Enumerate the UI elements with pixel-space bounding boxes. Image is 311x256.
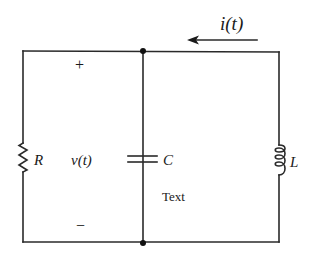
top-wire [23, 51, 279, 52]
voltage-label: v(t) [71, 153, 92, 168]
inductor-icon [275, 145, 285, 175]
plus-sign: + [75, 57, 84, 73]
capacitor-branch [128, 51, 157, 242]
minus-sign: − [76, 218, 85, 234]
bottom-node [140, 240, 146, 246]
current-arrow-icon [187, 36, 257, 45]
current-label: i(t) [220, 14, 243, 33]
inductor-label: L [290, 155, 298, 170]
inductor-branch [275, 52, 285, 242]
circuit-diagram [0, 0, 311, 256]
resistor-branch [19, 51, 27, 242]
capacitor-label: C [163, 153, 173, 168]
resistor-icon [19, 143, 27, 172]
resistor-label: R [34, 153, 43, 168]
top-node [140, 48, 146, 54]
extra-text-label: Text [162, 190, 185, 203]
